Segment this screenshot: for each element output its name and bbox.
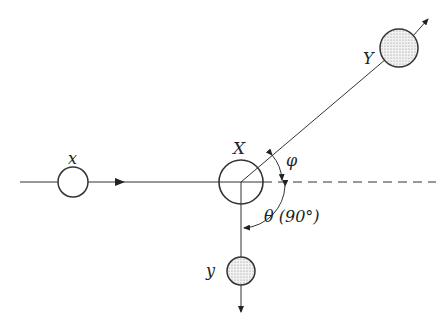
label-X: X (231, 138, 246, 158)
scattering-diagram: x X Y y φ θ (90°) (0, 0, 436, 329)
label-theta: θ (90°) (264, 207, 320, 226)
label-phi: φ (286, 151, 298, 170)
label-Y: Y (363, 49, 375, 68)
label-x: x (68, 149, 77, 168)
particle-Y (380, 29, 418, 67)
trajectory-Y (241, 59, 386, 182)
phi-arc (272, 155, 282, 180)
label-y: y (205, 261, 216, 280)
particle-x (58, 167, 88, 197)
particle-y (227, 257, 255, 285)
